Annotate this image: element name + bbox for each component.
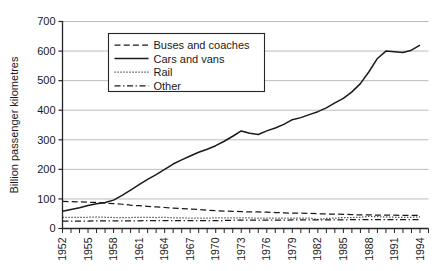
y-tick-label: 600 <box>37 45 55 57</box>
line-chart: 0100200300400500600700 19521955195819611… <box>0 0 448 271</box>
x-tick-label: 1958 <box>107 237 119 261</box>
x-tick-label: 1979 <box>286 237 298 261</box>
x-tick-label: 1955 <box>82 237 94 261</box>
legend-label: Other <box>154 80 182 92</box>
x-tick-label: 1952 <box>56 237 68 261</box>
x-tick-label: 1988 <box>363 237 375 261</box>
x-axis-ticks: 1952195519581961196419671970197319761979… <box>56 229 428 261</box>
y-tick-label: 500 <box>37 74 55 86</box>
y-axis-title-text: Billion passenger kilometres <box>8 56 20 193</box>
chart-container: 0100200300400500600700 19521955195819611… <box>0 0 448 271</box>
legend-label: Buses and coaches <box>154 39 251 51</box>
y-tick-label: 0 <box>49 222 55 234</box>
legend-label: Cars and vans <box>154 53 225 65</box>
x-tick-label: 1976 <box>260 237 272 261</box>
x-tick-label: 1964 <box>158 237 170 261</box>
chart-legend: Buses and coachesCars and vansRailOther <box>109 34 265 92</box>
series-line-rail <box>63 216 420 219</box>
y-axis-ticks: 0100200300400500600700 <box>37 15 62 234</box>
x-tick-label: 1994 <box>414 237 426 261</box>
x-tick-label: 1991 <box>388 237 400 261</box>
legend-label: Rail <box>154 66 173 78</box>
x-tick-label: 1961 <box>133 237 145 261</box>
y-tick-label: 300 <box>37 134 55 146</box>
x-tick-label: 1973 <box>235 237 247 261</box>
x-tick-label: 1982 <box>311 237 323 261</box>
y-tick-label: 100 <box>37 193 55 205</box>
y-tick-label: 400 <box>37 104 55 116</box>
y-axis-title: Billion passenger kilometres <box>8 56 20 193</box>
series-line-buses-and-coaches <box>63 201 420 215</box>
y-tick-label: 700 <box>37 15 55 27</box>
x-tick-label: 1985 <box>337 237 349 261</box>
x-tick-label: 1967 <box>184 237 196 261</box>
y-tick-label: 200 <box>37 163 55 175</box>
series-line-other <box>63 220 420 221</box>
x-tick-label: 1970 <box>209 237 221 261</box>
